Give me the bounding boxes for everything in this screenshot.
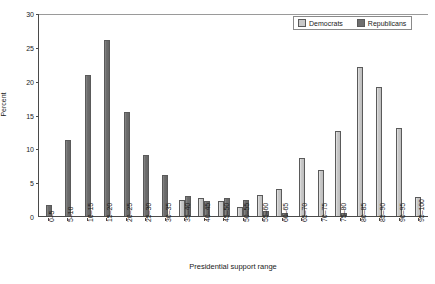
bar-chart: Percent 051015202530 0–55–1010–1515–2020… (0, 0, 435, 284)
x-axis-tick-cell: 55–60 (253, 221, 273, 255)
x-axis-tick-cell: 30–35 (155, 221, 175, 255)
x-axis-tick-cell: 40–45 (194, 221, 214, 255)
x-axis-tick-label: 85–90 (379, 203, 386, 222)
x-axis-tick-cell: 90–95 (389, 221, 409, 255)
bar-group (409, 14, 428, 216)
bar-group (331, 14, 350, 216)
bar-group (311, 14, 330, 216)
legend-item-republicans: Republicans (357, 19, 407, 27)
x-axis-tick-label: 0–5 (48, 211, 55, 222)
bar-group (214, 14, 233, 216)
y-axis-title-wrap: Percent (4, 0, 18, 203)
x-axis-tick-label: 30–35 (165, 203, 172, 222)
bar-group (370, 14, 389, 216)
x-axis-tick-cell: 25–30 (136, 221, 156, 255)
bar-group (117, 14, 136, 216)
bar-group (253, 14, 272, 216)
x-axis-tick-cell: 20–25 (116, 221, 136, 255)
x-axis-tick-label: 25–30 (145, 203, 152, 222)
x-axis-tick-cell: 65–70 (292, 221, 312, 255)
bar-group (58, 14, 77, 216)
x-axis-tick-label: 70–75 (321, 203, 328, 222)
bar-group (272, 14, 291, 216)
legend-label-republicans: Republicans (368, 20, 407, 27)
x-axis-tick-label: 90–95 (399, 203, 406, 222)
bar-group (195, 14, 214, 216)
x-axis-tick-label: 50–55 (243, 203, 250, 222)
x-axis-tick-label: 35–40 (184, 203, 191, 222)
bar-republicans (65, 140, 71, 216)
legend-item-democrats: Democrats (298, 19, 343, 27)
legend-swatch-democrats-icon (298, 19, 306, 27)
bar-republicans (124, 112, 130, 216)
bar-group (156, 14, 175, 216)
x-axis-tick-cell: 5–10 (58, 221, 78, 255)
x-axis-title: Presidential support range (38, 262, 428, 271)
x-axis-tick-label: 75–80 (340, 203, 347, 222)
y-axis-title: Percent (0, 92, 7, 116)
x-axis-tick-label: 20–25 (126, 203, 133, 222)
bar-republicans (85, 75, 91, 216)
bar-group (97, 14, 116, 216)
y-axis-tick-label: 0 (30, 214, 39, 221)
plot-area: 051015202530 (38, 14, 428, 217)
bar-group (39, 14, 58, 216)
x-axis-tick-label: 95–100 (418, 199, 425, 222)
bar-group (350, 14, 369, 216)
bar-democrats (376, 87, 382, 216)
legend-label-democrats: Democrats (309, 20, 343, 27)
x-axis-tick-cell: 10–15 (77, 221, 97, 255)
x-axis-tick-label: 45–50 (223, 203, 230, 222)
bar-group (136, 14, 155, 216)
bar-group (175, 14, 194, 216)
x-axis-tick-cell: 85–90 (370, 221, 390, 255)
bar-republicans (104, 40, 110, 216)
bar-group (234, 14, 253, 216)
x-axis-tick-cell: 95–100 (409, 221, 429, 255)
x-axis-tick-label: 80–85 (360, 203, 367, 222)
x-axis-tick-labels: 0–55–1010–1515–2020–2525–3030–3535–4040–… (38, 221, 428, 255)
x-axis-tick-label: 5–10 (67, 207, 74, 222)
x-axis-tick-label: 10–15 (87, 203, 94, 222)
x-axis-tick-cell: 50–55 (233, 221, 253, 255)
bar-democrats (357, 67, 363, 216)
x-axis-tick-label: 55–60 (262, 203, 269, 222)
bar-group (389, 14, 408, 216)
x-axis-tick-cell: 15–20 (97, 221, 117, 255)
x-axis-tick-label: 40–45 (204, 203, 211, 222)
x-axis-tick-label: 65–70 (301, 203, 308, 222)
x-axis-tick-label: 15–20 (106, 203, 113, 222)
x-axis-tick-cell: 60–65 (272, 221, 292, 255)
bar-group (292, 14, 311, 216)
x-axis-tick-cell: 45–50 (214, 221, 234, 255)
x-axis-tick-cell: 75–80 (331, 221, 351, 255)
x-axis-tick-cell: 80–85 (350, 221, 370, 255)
x-axis-tick-cell: 70–75 (311, 221, 331, 255)
bar-groups (39, 14, 428, 216)
bar-group (78, 14, 97, 216)
chart-legend: Democrats Republicans (293, 16, 412, 30)
legend-swatch-republicans-icon (357, 19, 365, 27)
x-axis-tick-cell: 35–40 (175, 221, 195, 255)
x-axis-tick-cell: 0–5 (38, 221, 58, 255)
x-axis-tick-label: 60–65 (282, 203, 289, 222)
